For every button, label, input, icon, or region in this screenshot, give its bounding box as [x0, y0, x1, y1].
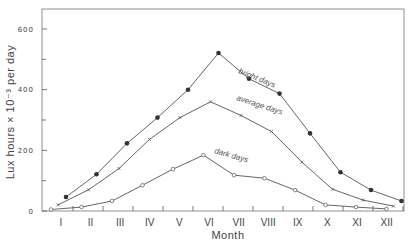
y-tick-label: 600: [18, 26, 34, 34]
data-point: [399, 199, 404, 204]
x-axis: IIIIIIIVVVIVIIVIIIIXXXIXII: [60, 206, 403, 228]
data-point: [141, 183, 145, 187]
data-point: [186, 87, 191, 92]
data-point: [385, 207, 389, 211]
data-point: [354, 205, 358, 209]
data-point: [202, 153, 206, 157]
series-line-bright-days: [66, 53, 402, 201]
data-point: [57, 203, 60, 206]
data-point: [125, 141, 130, 146]
x-tick-label: VII: [232, 217, 244, 228]
series-label: bright days: [237, 67, 277, 90]
series-label: dark days: [213, 146, 249, 164]
series-group: bright daysaverage daysdark days: [49, 51, 404, 212]
data-point: [270, 130, 273, 133]
y-axis-title: Lux hours × 10⁻³ per day: [4, 45, 16, 180]
data-point: [324, 203, 328, 207]
data-point: [80, 205, 84, 209]
series-line-dark-days: [51, 155, 387, 209]
data-point: [94, 172, 99, 177]
data-point: [148, 138, 151, 141]
y-tick-label: 200: [18, 147, 34, 155]
x-tick-label: VI: [204, 217, 213, 228]
x-tick-label: IX: [293, 217, 303, 228]
series-label: average days: [235, 93, 283, 116]
data-point: [171, 167, 175, 171]
data-point: [110, 199, 114, 203]
data-point: [49, 208, 53, 212]
data-point: [232, 173, 236, 177]
x-tick-label: III: [116, 217, 124, 228]
data-point: [308, 131, 313, 136]
data-point: [216, 51, 221, 56]
x-tick-label: XI: [352, 217, 361, 228]
data-point: [64, 195, 69, 200]
plot-frame: [42, 9, 404, 211]
data-point: [293, 188, 297, 192]
data-point: [338, 170, 343, 175]
x-tick-label: IV: [145, 217, 155, 228]
data-point: [118, 167, 121, 170]
x-axis-title: Month: [211, 229, 244, 241]
x-tick-label: I: [60, 217, 63, 228]
data-point: [263, 176, 267, 180]
data-point: [155, 115, 160, 120]
data-point: [87, 188, 90, 191]
data-point: [179, 116, 182, 119]
chart: 0200400600 IIIIIIIVVVIVIIVIIIIXXXIXII br…: [0, 0, 414, 244]
y-tick-label: 0: [29, 208, 34, 216]
x-tick-label: VIII: [261, 217, 276, 228]
y-tick-label: 400: [18, 86, 34, 94]
x-tick-label: XII: [380, 217, 392, 228]
data-point: [369, 188, 374, 193]
data-point: [277, 91, 282, 96]
data-point: [301, 161, 304, 164]
y-axis: 0200400600: [18, 26, 47, 216]
x-tick-label: II: [88, 217, 94, 228]
x-tick-label: X: [324, 217, 331, 228]
x-tick-label: V: [176, 217, 183, 228]
